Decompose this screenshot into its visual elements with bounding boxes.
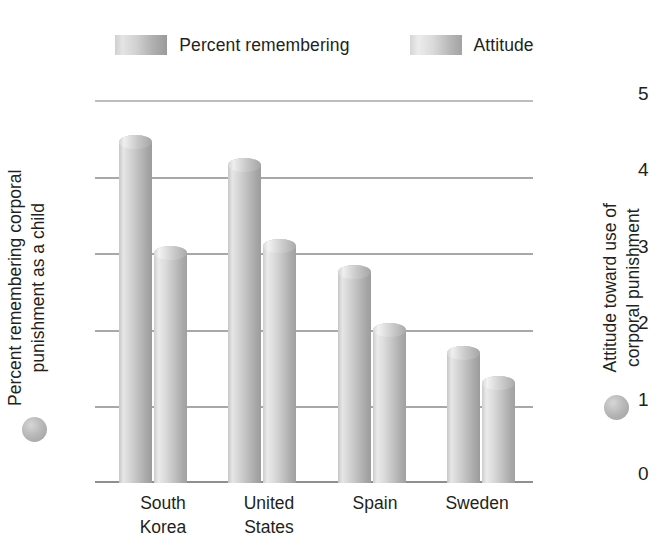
axis-title-line: Percent remembering corporal [4, 138, 27, 438]
bar-cap [154, 246, 187, 260]
x-axis-label-spain: Spain [323, 492, 427, 516]
bar-body [482, 383, 515, 483]
bar-body [119, 142, 152, 483]
x-axis-labels: SouthKorea UnitedStates Spain Sweden [95, 492, 533, 552]
legend-entry-attitude: Attitude [410, 35, 534, 56]
bar-body [373, 330, 406, 483]
x-axis-label-line: South [111, 492, 215, 516]
axis-title-line: punishment as a child [27, 138, 50, 438]
bar-group [95, 100, 533, 483]
bar-united-states-series-a [228, 158, 261, 483]
bar-body [228, 165, 261, 483]
bar-body [338, 272, 371, 483]
bar-spain-series-b [373, 323, 406, 483]
bar-south-korea-series-b [154, 246, 187, 483]
legend-label-percent-remembering: Percent remembering [179, 35, 349, 56]
x-axis-label-south-korea: SouthKorea [111, 492, 215, 539]
x-axis-label-line: Sweden [425, 492, 529, 516]
bar-spain-series-a [338, 265, 371, 483]
plot-area: 100 80 60 40 20 0 5 4 3 2 1 0 [95, 100, 533, 483]
x-axis-label-line: Korea [111, 516, 215, 540]
bar-body [263, 246, 296, 483]
legend-swatch-attitude-icon [410, 35, 462, 55]
y2-axis-tick-5: 5 [638, 84, 649, 103]
x-axis-label-line: Spain [323, 492, 427, 516]
y-axis-marker-circle-icon [22, 417, 47, 442]
bar-cap [263, 239, 296, 253]
axis-title-line: corporal punishment [622, 138, 645, 438]
legend-entry-percent-remembering: Percent remembering [115, 35, 349, 56]
x-axis-label-line: States [217, 516, 321, 540]
y-axis-title: Percent remembering corporalpunishment a… [4, 138, 50, 438]
y2-axis-tick-0: 0 [638, 464, 649, 483]
bar-body [447, 353, 480, 483]
bar-cap [119, 135, 152, 149]
bar-sweden-series-b [482, 376, 515, 483]
bar-south-korea-series-a [119, 135, 152, 483]
bar-united-states-series-b [263, 239, 296, 483]
y2-axis-title: Attitude toward use ofcorporal punishmen… [599, 138, 645, 438]
bar-sweden-series-a [447, 346, 480, 483]
axis-title-line: Attitude toward use of [599, 138, 622, 438]
y2-axis-marker-circle-icon [604, 395, 629, 420]
bar-cap [373, 323, 406, 337]
legend-swatch-percent-remembering-icon [115, 35, 167, 55]
x-axis-label-sweden: Sweden [425, 492, 529, 516]
x-axis-label-line: United [217, 492, 321, 516]
bar-body [154, 253, 187, 483]
bar-cap [447, 346, 480, 360]
x-axis-label-united-states: UnitedStates [217, 492, 321, 539]
legend-label-attitude: Attitude [474, 35, 534, 56]
chart-legend: Percent remembering Attitude [0, 28, 649, 62]
